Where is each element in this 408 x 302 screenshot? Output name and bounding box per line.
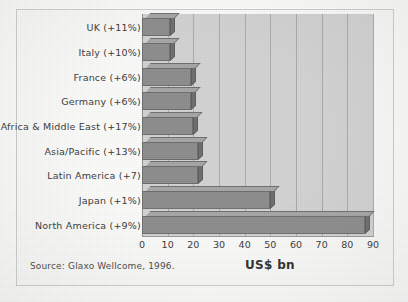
bar-front-face xyxy=(142,43,170,61)
source-note: Source: Glaxo Wellcome, 1996. xyxy=(30,261,175,271)
category-label: Africa & Middle East (+17%) xyxy=(1,121,141,132)
x-axis-title: US$ bn xyxy=(210,258,330,272)
gridline xyxy=(373,14,374,236)
bar-front-face xyxy=(142,18,170,36)
category-label: North America (+9%) xyxy=(35,220,141,231)
category-label: Germany (+6%) xyxy=(61,96,141,107)
gridline xyxy=(296,14,297,236)
bar-front-face xyxy=(142,68,191,86)
bar xyxy=(142,43,170,61)
category-label: Italy (+10%) xyxy=(78,47,141,58)
bar-front-face xyxy=(142,191,270,209)
x-tick-label: 40 xyxy=(234,239,256,250)
x-tick-label: 10 xyxy=(157,239,179,250)
bar xyxy=(142,166,198,184)
bar-front-face xyxy=(142,117,193,135)
gridline xyxy=(347,14,348,236)
bar-front-face xyxy=(142,92,191,110)
category-label: France (+6%) xyxy=(74,72,141,83)
bar xyxy=(142,18,170,36)
bar xyxy=(142,191,270,209)
bar-front-face xyxy=(142,216,365,234)
bar-front-face xyxy=(142,166,198,184)
category-label: Japan (+1%) xyxy=(79,195,141,206)
bar xyxy=(142,142,198,160)
category-label: Asia/Pacific (+13%) xyxy=(44,146,141,157)
x-axis-line xyxy=(142,236,374,237)
bar xyxy=(142,117,193,135)
x-tick-label: 70 xyxy=(311,239,333,250)
x-tick-label: 30 xyxy=(208,239,230,250)
x-tick-label: 0 xyxy=(131,239,153,250)
bar xyxy=(142,68,191,86)
category-label: UK (+11%) xyxy=(87,22,142,33)
category-label: Latin America (+7) xyxy=(47,170,141,181)
x-tick-label: 80 xyxy=(336,239,358,250)
bar-chart-figure: UK (+11%)Italy (+10%)France (+6%)Germany… xyxy=(0,0,408,302)
gridline xyxy=(322,14,323,236)
bar xyxy=(142,216,365,234)
bar-front-face xyxy=(142,142,198,160)
bar xyxy=(142,92,191,110)
x-tick-label: 50 xyxy=(259,239,281,250)
x-tick-label: 60 xyxy=(285,239,307,250)
x-tick-label: 90 xyxy=(362,239,384,250)
x-tick-label: 20 xyxy=(182,239,204,250)
